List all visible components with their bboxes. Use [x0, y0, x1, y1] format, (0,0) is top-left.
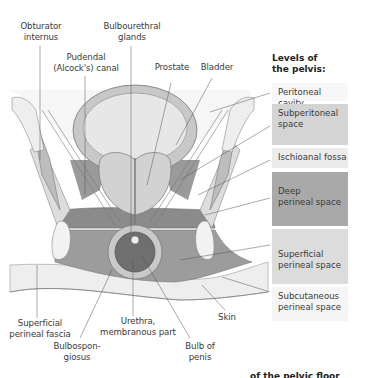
label-skin: Skin [212, 312, 242, 323]
legend-title: Levels of the pelvis: [272, 53, 326, 75]
label-urethra-membranous-part: Urethra, membranous part [96, 316, 180, 337]
legend-peritoneal-cavity: Peritoneal cavity [272, 83, 348, 101]
label-prostate: Prostate [150, 62, 194, 73]
label-bulbourethral-glands: Bulbourethral glands [96, 21, 168, 42]
urethra-in-bulb [131, 236, 139, 244]
cut-off-caption: of the pelvic floor [250, 371, 340, 378]
legend-deep-perineal-space: Deep perineal space [272, 172, 348, 226]
label-obturator-internus: Obturator internus [10, 21, 72, 42]
bladder-lumen [83, 93, 187, 163]
legend-subperitoneal-space: Subperitoneal space [272, 104, 348, 145]
legend-subcutaneous-perineal-space: Subcutaneous perineal space [272, 287, 348, 321]
label-bladder: Bladder [196, 62, 238, 73]
label-pudendal-canal: Pudendal (Alcock's) canal [46, 52, 126, 73]
legend-ischioanal-fossa: Ischioanal fossa [272, 148, 348, 168]
label-bulbospongiosus: Bulbospon- giosus [46, 341, 108, 362]
label-superficial-perineal-fascia: Superficial perineal fascia [2, 318, 78, 339]
legend-superficial-perineal-space: Superficial perineal space [272, 229, 348, 284]
label-bulb-of-penis: Bulb of penis [180, 341, 220, 362]
